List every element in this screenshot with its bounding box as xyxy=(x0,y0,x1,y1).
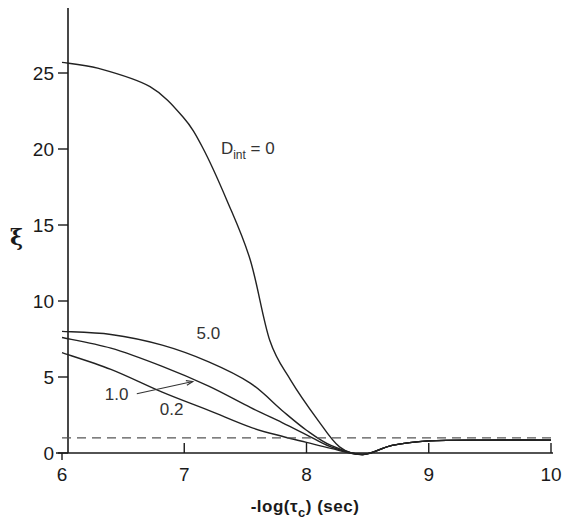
annotation-1-0: 1.0 xyxy=(105,385,129,404)
chart: 0510152025 678910 Dint = 05.01.00.2 ξ -l… xyxy=(0,0,570,525)
x-ticks: 678910 xyxy=(57,443,562,485)
series-d-int-1-0 xyxy=(62,337,551,454)
series-layer xyxy=(62,62,551,454)
x-axis-label: -log(τc) (sec) xyxy=(251,497,360,520)
y-tick-label: 10 xyxy=(33,291,54,312)
y-ticks: 0510152025 xyxy=(33,63,68,464)
y-tick-label: 20 xyxy=(33,139,54,160)
series-d-int-5-0 xyxy=(62,331,551,454)
y-tick-label: 5 xyxy=(43,367,54,388)
y-tick-label: 15 xyxy=(33,215,54,236)
x-tick-label: 10 xyxy=(540,464,561,485)
series-d-int-0 xyxy=(62,62,551,454)
x-tick-label: 9 xyxy=(423,464,434,485)
y-axis-label: ξ xyxy=(10,224,23,250)
y-tick-label: 25 xyxy=(33,63,54,84)
axes xyxy=(56,8,553,453)
x-tick-label: 6 xyxy=(57,464,68,485)
x-tick-label: 8 xyxy=(301,464,312,485)
x-tick-label: 7 xyxy=(179,464,190,485)
annotation-arrow xyxy=(137,382,193,394)
y-tick-label: 0 xyxy=(43,443,54,464)
annotation-dint-0: Dint = 0 xyxy=(221,139,275,162)
annotation-0-2: 0.2 xyxy=(160,400,184,419)
annotation-5-0: 5.0 xyxy=(196,324,220,343)
